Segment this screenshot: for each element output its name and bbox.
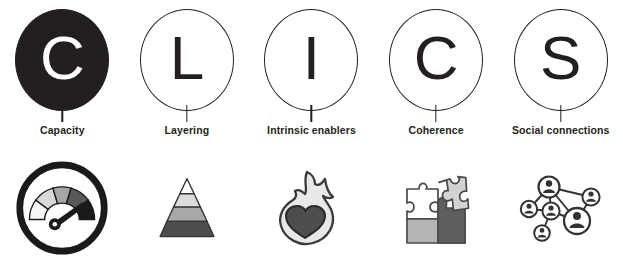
connector-line	[311, 105, 312, 122]
icon-column-capacity	[0, 158, 125, 264]
social-network-icon-svg	[515, 167, 607, 249]
flame-heart-icon	[259, 158, 363, 258]
letter-glyph: C	[414, 27, 459, 89]
letter-glyph: L	[170, 27, 204, 89]
letter-glyph: C	[40, 27, 85, 89]
gauge-icon-svg	[14, 160, 110, 256]
icon-column-intrinsic-enablers	[249, 158, 374, 264]
connector-line	[62, 105, 63, 122]
letter-circle-shape: I	[264, 9, 358, 111]
letter-circle-c2: C	[389, 9, 483, 111]
letter-circle-i: I	[264, 9, 358, 111]
connector-line	[435, 105, 436, 122]
letter-circle-shape: C	[15, 9, 109, 111]
letter-circle-s: S	[514, 9, 608, 111]
gauge-icon	[10, 158, 114, 258]
label-coherence: Coherence	[374, 124, 499, 136]
letter-circle-shape: S	[514, 9, 608, 111]
letter-glyph: I	[303, 27, 320, 89]
social-network-icon	[509, 158, 613, 258]
label-layering: Layering	[125, 124, 250, 136]
flame-heart-icon-svg	[274, 168, 348, 248]
clics-column-capacity: C Capacity	[0, 0, 125, 150]
pyramid-icon	[135, 158, 239, 258]
label-social-connections: Social connections	[498, 124, 623, 136]
icon-column-social-connections	[498, 158, 623, 264]
puzzle-pieces-icon	[384, 158, 488, 258]
connector-line	[186, 105, 187, 122]
letter-circle-shape: L	[140, 9, 234, 111]
clics-column-social-connections: S Social connections	[498, 0, 623, 150]
letter-circle-shape: C	[389, 9, 483, 111]
connector-line	[560, 105, 561, 122]
clics-column-coherence: C Coherence	[374, 0, 499, 150]
letter-circle-l: L	[140, 9, 234, 111]
letter-circle-c1: C	[15, 9, 109, 111]
puzzle-pieces-icon-svg	[393, 167, 479, 249]
icon-column-coherence	[374, 158, 499, 264]
pyramid-icon-svg	[145, 175, 229, 241]
clics-framework-diagram: C Capacity L Layering I Intrinsic enable…	[0, 0, 623, 264]
clics-column-layering: L Layering	[125, 0, 250, 150]
label-intrinsic-enablers: Intrinsic enablers	[249, 124, 374, 136]
clics-column-intrinsic-enablers: I Intrinsic enablers	[249, 0, 374, 150]
icon-column-layering	[125, 158, 250, 264]
label-capacity: Capacity	[0, 124, 125, 136]
letter-glyph: S	[540, 27, 581, 89]
